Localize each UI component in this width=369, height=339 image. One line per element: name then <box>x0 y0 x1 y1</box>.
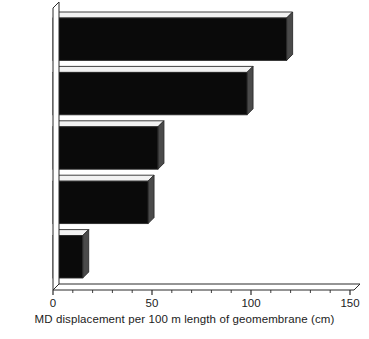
x-tick-label-150: 150 <box>330 298 369 310</box>
y-axis-spine <box>53 2 59 290</box>
bar-hdpe[interactable] <box>53 12 293 60</box>
bar-top-face <box>53 12 293 18</box>
bar-top-face <box>53 66 253 72</box>
bar-top-face <box>53 175 154 181</box>
chart-plot-area <box>0 0 369 339</box>
bar-front-face <box>53 181 148 223</box>
bar-top-face <box>53 121 164 127</box>
bar-pvc[interactable] <box>53 175 154 223</box>
x-tick-label-0: 0 <box>33 298 73 310</box>
bar-fpp[interactable] <box>53 121 164 169</box>
bar-front-face <box>53 127 158 169</box>
bar-side-face <box>287 12 293 60</box>
x-tick-label-50: 50 <box>132 298 172 310</box>
bar-lldpe[interactable] <box>53 66 253 114</box>
bar-side-face <box>148 175 154 223</box>
category-axis-labels: HDPELLDPEfPPPVCfPP-R <box>0 0 48 339</box>
bar-side-face <box>247 66 253 114</box>
x-axis-spine <box>53 284 360 290</box>
bar-front-face <box>53 18 287 60</box>
bar-side-face <box>83 230 89 278</box>
bar-chart: HDPELLDPEfPPPVCfPP-R 050100150 MD displa… <box>0 0 369 339</box>
bars-group <box>53 12 293 278</box>
bar-front-face <box>53 72 247 114</box>
x-tick-label-100: 100 <box>231 298 271 310</box>
bar-side-face <box>158 121 164 169</box>
x-axis-title: MD displacement per 100 m length of geom… <box>0 313 369 325</box>
